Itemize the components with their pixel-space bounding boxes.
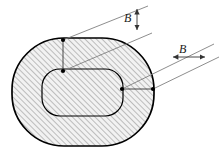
technical-figure: B B — [0, 0, 222, 155]
dimension-label-b-right: B — [179, 43, 186, 55]
marker-inner-top-icon — [61, 69, 65, 73]
figure-canvas — [0, 0, 222, 155]
leader-line-lower-right — [153, 57, 219, 89]
hatched-section — [12, 38, 154, 146]
marker-inner-right-icon — [120, 87, 124, 91]
marker-outer-right-icon — [151, 87, 155, 91]
leader-line-upper-top — [63, 6, 148, 40]
inner-hole-shape — [42, 69, 123, 116]
dimension-label-b-top: B — [124, 12, 131, 24]
marker-outer-top-icon — [61, 38, 65, 42]
